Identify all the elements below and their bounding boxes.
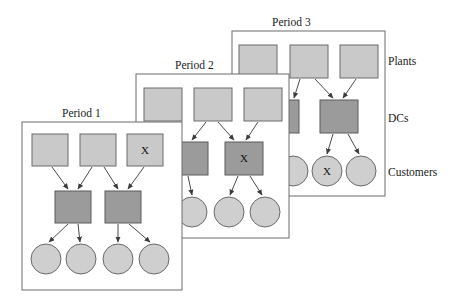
tier-labels-layer: PlantsDCsCustomers (388, 55, 438, 178)
period-1-title: Period 1 (62, 107, 101, 119)
p2-plant-1-node[interactable] (144, 88, 182, 121)
p1-cust-1-node[interactable] (31, 244, 61, 274)
p1-plant-1-node[interactable] (32, 134, 68, 166)
period-3-title: Period 3 (272, 16, 311, 28)
dcs-label: DCs (388, 112, 409, 124)
p2-cust-2-node[interactable] (214, 197, 244, 227)
p3-cust-3-node[interactable] (346, 156, 376, 186)
p3-plant-2-node[interactable] (290, 45, 328, 78)
periods-layer: Period 3XPeriod 2XPeriod 1X (22, 16, 385, 290)
p1-cust-3-node[interactable] (103, 244, 133, 274)
p3-cust-2-mark: X (323, 165, 331, 177)
p3-plant-1-node[interactable] (239, 45, 277, 78)
p2-dc-2-mark: X (240, 152, 248, 164)
p2-cust-3-node[interactable] (250, 197, 280, 227)
period-2-title: Period 2 (175, 59, 214, 71)
p1-cust-2-node[interactable] (66, 244, 96, 274)
supply-chain-diagram: Period 3XPeriod 2XPeriod 1X PlantsDCsCus… (0, 0, 456, 304)
period-1-group: Period 1X (22, 107, 182, 290)
p2-plant-3-node[interactable] (244, 88, 282, 121)
p3-plant-3-node[interactable] (340, 45, 378, 78)
p1-dc-2-node[interactable] (105, 191, 141, 223)
plants-label: Plants (388, 55, 417, 67)
diagram-canvas: Period 3XPeriod 2XPeriod 1X PlantsDCsCus… (0, 0, 456, 304)
p1-plant-2-node[interactable] (80, 134, 116, 166)
p2-plant-2-node[interactable] (194, 88, 232, 121)
p1-plant-3-mark: X (141, 144, 149, 156)
p3-dc-2-node[interactable] (320, 100, 358, 133)
customers-label: Customers (388, 166, 438, 178)
p1-cust-4-node[interactable] (139, 244, 169, 274)
p1-dc-1-node[interactable] (55, 191, 91, 223)
